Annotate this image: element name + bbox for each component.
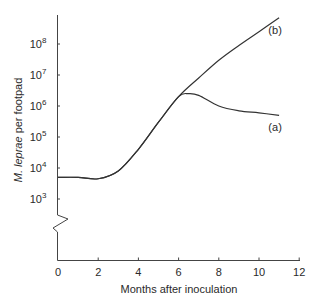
series-label-a: (a) — [268, 121, 281, 133]
series-labels: (a)(b) — [268, 24, 281, 134]
x-tick-label: 8 — [216, 266, 222, 278]
x-tick-label: 10 — [253, 266, 265, 278]
y-tick-label: 107 — [30, 67, 47, 81]
series-label-b: (b) — [268, 24, 281, 36]
x-tick-label: 4 — [135, 266, 141, 278]
data-series — [58, 18, 279, 179]
y-tick-label: 105 — [30, 129, 47, 143]
x-tick-label: 2 — [95, 266, 101, 278]
series-line-a — [58, 93, 279, 179]
y-tick-label: 108 — [30, 36, 47, 50]
y-axis-ticks: 103104105106107108 — [30, 36, 60, 205]
chart-svg: 103104105106107108 024681012 (a)(b) Mont… — [0, 0, 322, 305]
series-line-b — [58, 18, 279, 179]
y-axis-label: M. leprae per footpad — [12, 78, 24, 183]
y-axis-label-rest: per footpad — [12, 78, 24, 137]
x-tick-label: 0 — [55, 266, 61, 278]
chart-container: 103104105106107108 024681012 (a)(b) Mont… — [0, 0, 322, 305]
y-tick-label: 106 — [30, 98, 47, 112]
y-axis-line — [53, 15, 300, 261]
x-axis-label: Months after inoculation — [121, 283, 238, 295]
y-tick-label: 103 — [30, 191, 47, 205]
y-axis-label-italic: M. leprae — [12, 136, 24, 182]
y-tick-label: 104 — [30, 160, 47, 174]
x-tick-label: 12 — [293, 266, 305, 278]
x-tick-label: 6 — [176, 266, 182, 278]
